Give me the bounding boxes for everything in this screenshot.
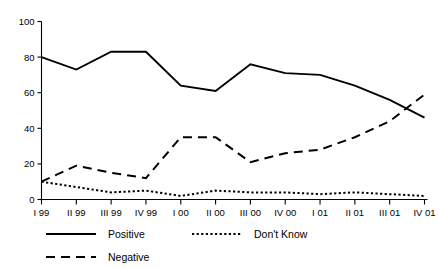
x-tick-label: I 00 [173,207,189,218]
chart-canvas: 020406080100 I 99II 99III 99IV 99I 00II … [0,0,439,269]
x-tick-label: IV 01 [413,207,435,218]
x-tick-label: II 00 [206,207,225,218]
y-axis-tick-labels: 020406080100 [19,16,35,205]
legend-item-don-t-know: Don't Know [192,228,308,240]
x-axis-ticks [42,200,425,205]
legend-item-negative: Negative [46,251,150,263]
x-tick-label: II 99 [67,207,86,218]
legend-item-positive: Positive [46,228,145,240]
series-group [42,52,425,196]
x-tick-label: III 01 [379,207,400,218]
y-tick-label: 60 [24,87,35,98]
y-axis-ticks [38,22,42,200]
y-tick-label: 80 [24,52,35,63]
series-line-don-t-know [42,182,425,196]
x-tick-label: III 00 [240,207,261,218]
legend-label: Positive [108,228,145,240]
legend-label: Don't Know [254,228,308,240]
series-line-positive [42,52,425,118]
x-tick-label: IV 00 [274,207,296,218]
x-tick-label: IV 99 [135,207,157,218]
x-tick-label: III 99 [101,207,122,218]
y-tick-label: 40 [24,123,35,134]
chart-legend: PositiveDon't KnowNegative [46,228,308,263]
line-chart: 020406080100 I 99II 99III 99IV 99I 00II … [0,0,439,269]
y-tick-label: 0 [29,194,34,205]
x-tick-label: II 01 [346,207,365,218]
x-tick-label: I 99 [34,207,50,218]
series-line-negative [42,94,425,181]
y-tick-label: 20 [24,158,35,169]
legend-label: Negative [108,251,150,263]
x-axis-tick-labels: I 99II 99III 99IV 99I 00II 00III 00IV 00… [34,207,436,218]
y-tick-label: 100 [19,16,35,27]
x-tick-label: I 01 [312,207,328,218]
